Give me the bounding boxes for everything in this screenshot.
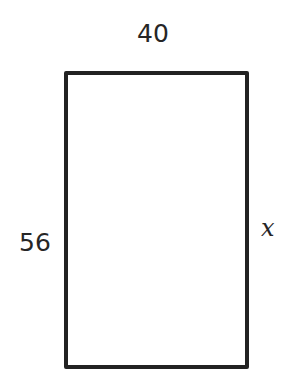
left-side-length-label: 56	[19, 230, 51, 255]
right-side-variable-label: x	[261, 216, 275, 240]
rectangle-shape	[64, 71, 249, 369]
top-side-length-label: 40	[137, 21, 169, 46]
